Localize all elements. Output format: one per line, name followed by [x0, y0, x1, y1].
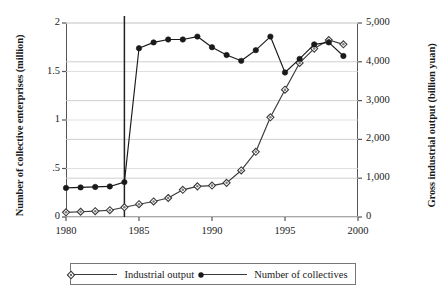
datapoint-open-diamond-center: [79, 211, 82, 214]
y-tick-label-right: 2,000: [366, 132, 410, 143]
legend-marker-open-diamond: [71, 274, 117, 275]
datapoint-filled-circle: [341, 53, 346, 58]
datapoint-open-diamond-center: [123, 206, 126, 209]
datapoint-open-diamond-center: [138, 203, 141, 206]
y-tick-label-left: 0: [16, 210, 60, 221]
datapoint-open-diamond-center: [196, 185, 199, 188]
legend-item-number-of-collectives: Number of collectives: [201, 269, 354, 280]
x-tick-label: 2000: [334, 225, 382, 236]
datapoint-open-diamond-center: [240, 169, 243, 172]
y-tick-label-right: 3,000: [366, 94, 410, 105]
datapoint-open-diamond-center: [167, 197, 170, 200]
y-tick-label-right: 4,000: [366, 55, 410, 66]
datapoint-open-diamond-center: [269, 116, 272, 119]
datapoint-filled-circle: [107, 184, 112, 189]
datapoint-filled-circle: [224, 52, 229, 57]
datapoint-filled-circle: [326, 40, 331, 45]
datapoint-filled-circle: [209, 45, 214, 50]
datapoint-filled-circle: [63, 185, 68, 190]
datapoint-open-diamond-center: [211, 184, 214, 187]
datapoint-filled-circle: [78, 185, 83, 190]
datapoint-open-diamond-center: [342, 43, 345, 46]
datapoint-filled-circle: [166, 37, 171, 42]
y-tick-label-left: 2: [16, 16, 60, 27]
datapoint-open-diamond-center: [313, 47, 316, 50]
datapoint-filled-circle: [93, 184, 98, 189]
datapoint-open-diamond-center: [182, 189, 185, 192]
y-tick-label-right: 0: [366, 210, 410, 221]
datapoint-open-diamond-center: [284, 88, 287, 91]
y-tick-label-right: 5,000: [366, 16, 410, 27]
datapoint-filled-circle: [297, 56, 302, 61]
datapoint-filled-circle: [180, 37, 185, 42]
legend-item-industrial-output: Industrial output: [71, 269, 201, 280]
datapoint-open-diamond-center: [225, 182, 228, 185]
x-tick-label: 1980: [42, 225, 90, 236]
chart-legend: Industrial output Number of collectives: [70, 263, 356, 285]
y-tick-label-left: .5: [16, 162, 60, 173]
y-tick-label-left: 1: [16, 113, 60, 124]
datapoint-open-diamond-center: [255, 151, 257, 154]
datapoint-open-diamond-center: [152, 200, 155, 203]
datapoint-filled-circle: [282, 70, 287, 75]
x-tick-label: 1990: [188, 225, 236, 236]
datapoint-filled-circle: [253, 47, 258, 52]
y-tick-label-right: 1,000: [366, 171, 410, 182]
legend-marker-filled-circle: [201, 274, 247, 275]
x-tick-label: 1985: [115, 225, 163, 236]
datapoint-filled-circle: [239, 58, 244, 63]
datapoint-filled-circle: [151, 40, 156, 45]
x-tick-label: 1995: [261, 225, 309, 236]
datapoint-filled-circle: [195, 34, 200, 39]
datapoint-filled-circle: [312, 42, 317, 47]
datapoint-filled-circle: [268, 34, 273, 39]
datapoint-open-diamond-center: [65, 211, 68, 214]
datapoint-open-diamond-center: [298, 62, 301, 65]
datapoint-filled-circle: [122, 179, 127, 184]
y-tick-label-left: 1.5: [16, 65, 60, 76]
datapoint-filled-circle: [136, 46, 141, 51]
datapoint-open-diamond-center: [94, 210, 97, 213]
datapoint-open-diamond-center: [109, 209, 112, 212]
